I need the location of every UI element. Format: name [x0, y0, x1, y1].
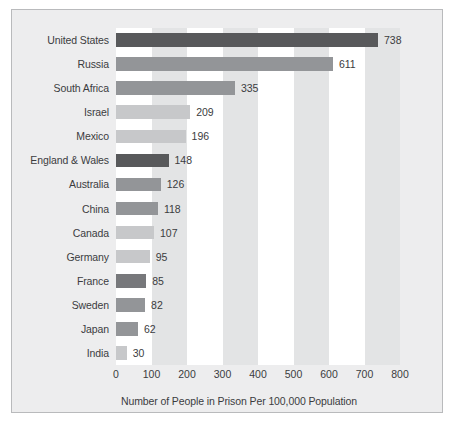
bar-value-label: 148	[175, 154, 193, 168]
x-tick-label: 400	[249, 368, 267, 380]
category-label: United States	[47, 28, 109, 52]
category-label: China	[82, 197, 109, 221]
bar-wrapper: 95	[116, 250, 150, 264]
bar-row: Sweden82	[116, 293, 400, 317]
bar-wrapper: 118	[116, 202, 158, 216]
x-tick-label: 100	[143, 368, 161, 380]
bar-wrapper: 209	[116, 105, 190, 119]
bar-row: China118	[116, 197, 400, 221]
bar	[116, 202, 158, 216]
category-label: Canada	[73, 221, 109, 245]
bar-row: Russia611	[116, 52, 400, 76]
x-tick-label: 0	[113, 368, 119, 380]
category-label: India	[87, 341, 109, 365]
bar-value-label: 126	[167, 178, 185, 192]
bar-wrapper: 85	[116, 274, 146, 288]
x-tick-label: 800	[391, 368, 409, 380]
bar-row: Japan62	[116, 317, 400, 341]
bar-value-label: 196	[192, 130, 210, 144]
bar-row: Australia126	[116, 172, 400, 196]
bar-row: Germany95	[116, 245, 400, 269]
bar-value-label: 335	[241, 81, 259, 95]
bar-wrapper: 107	[116, 226, 154, 240]
category-label: Russia	[78, 52, 110, 76]
chart-panel: United States738Russia611South Africa335…	[11, 9, 443, 413]
x-tick-label: 300	[214, 368, 232, 380]
category-label: Sweden	[72, 293, 109, 317]
bar	[116, 178, 161, 192]
bar-value-label: 611	[339, 57, 356, 71]
bar	[116, 274, 146, 288]
bar	[116, 57, 333, 71]
x-axis-title: Number of People in Prison Per 100,000 P…	[24, 395, 454, 407]
bar-value-label: 82	[151, 298, 163, 312]
category-label: France	[77, 269, 109, 293]
bar-value-label: 30	[133, 346, 145, 360]
x-tick-label: 600	[320, 368, 338, 380]
bar-row: England & Wales148	[116, 148, 400, 172]
bar-row: Mexico196	[116, 124, 400, 148]
bar-wrapper: 62	[116, 322, 138, 336]
bar	[116, 81, 235, 95]
x-tick-label: 200	[178, 368, 196, 380]
bar-row: France85	[116, 269, 400, 293]
category-label: Japan	[81, 317, 109, 341]
bar-wrapper: 196	[116, 130, 186, 144]
category-label: Germany	[67, 245, 109, 269]
category-label: South Africa	[54, 76, 109, 100]
bar-row: Canada107	[116, 221, 400, 245]
bar-wrapper: 611	[116, 57, 333, 71]
bar-value-label: 118	[164, 202, 181, 216]
bar	[116, 154, 169, 168]
bar	[116, 226, 154, 240]
bar	[116, 298, 145, 312]
bar	[116, 130, 186, 144]
plot-area: United States738Russia611South Africa335…	[116, 28, 400, 365]
bar-wrapper: 148	[116, 154, 169, 168]
category-label: Mexico	[76, 124, 109, 148]
bar	[116, 322, 138, 336]
bar-wrapper: 82	[116, 298, 145, 312]
bar-value-label: 738	[384, 33, 402, 47]
bar	[116, 105, 190, 119]
bar-value-label: 85	[152, 274, 164, 288]
bar-rows: United States738Russia611South Africa335…	[116, 28, 400, 365]
bar-wrapper: 30	[116, 346, 127, 360]
bar-value-label: 107	[160, 226, 178, 240]
figure: United States738Russia611South Africa335…	[0, 0, 455, 431]
bar-row: Israel209	[116, 100, 400, 124]
x-tick-label: 500	[285, 368, 303, 380]
bar	[116, 33, 378, 47]
bar-row: India30	[116, 341, 400, 365]
bar-value-label: 95	[156, 250, 168, 264]
x-tick-label: 700	[356, 368, 374, 380]
bar-row: United States738	[116, 28, 400, 52]
bar-wrapper: 738	[116, 33, 378, 47]
bar	[116, 250, 150, 264]
bar	[116, 346, 127, 360]
bar-value-label: 209	[196, 105, 214, 119]
bar-value-label: 62	[144, 322, 156, 336]
category-label: England & Wales	[30, 148, 109, 172]
bar-row: South Africa335	[116, 76, 400, 100]
category-label: Israel	[84, 100, 109, 124]
bar-wrapper: 126	[116, 178, 161, 192]
x-axis-ticks: 0100200300400500600700800	[116, 365, 400, 385]
category-label: Australia	[69, 172, 109, 196]
bar-wrapper: 335	[116, 81, 235, 95]
